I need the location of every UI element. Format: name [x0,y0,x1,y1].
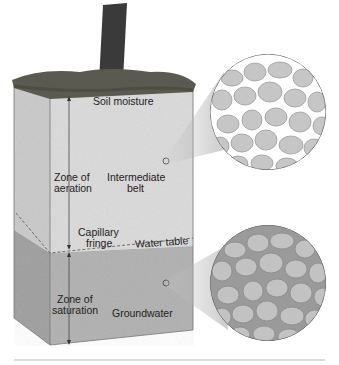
label-zone-aeration-2: aeration [54,183,92,194]
aeration-zone-magnified [210,54,331,174]
saturation-zone-magnified [210,225,332,345]
label-capillary-2: fringe [86,238,112,249]
label-zone-saturation-2: saturation [52,305,98,316]
label-soil-moisture: Soil moisture [93,96,154,107]
label-intermediate-2: belt [127,183,144,194]
label-groundwater: Groundwater [112,308,173,319]
